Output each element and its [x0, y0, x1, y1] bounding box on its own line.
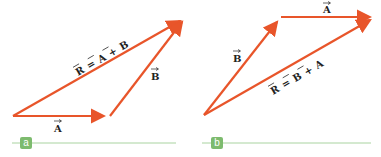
- panel-a: A B R = A + B: [12, 21, 182, 143]
- equation-r-a: R = A + B: [73, 38, 130, 78]
- label-a-top: A: [322, 2, 331, 16]
- vector-b-b: [204, 22, 277, 115]
- label-vector-b: B: [151, 71, 159, 82]
- panel-tag-a: a: [20, 137, 32, 149]
- label-vector-b: B: [233, 53, 241, 64]
- svg-text:R = A: R = A + B: [74, 39, 131, 78]
- label-b-side: B: [151, 68, 159, 83]
- label-vector-a: A: [322, 4, 331, 15]
- label-b-side: B: [233, 50, 241, 65]
- vector-b-a: [110, 22, 182, 116]
- vector-r-a: [13, 21, 180, 116]
- vector-r-b: [204, 20, 370, 115]
- label-a-under: A: [53, 120, 62, 135]
- svg-text:R = B: R = B + A: [269, 57, 326, 96]
- panel-tag-b: b: [211, 137, 223, 149]
- label-vector-a: A: [53, 123, 62, 134]
- panel-b: A B R = B + A: [202, 2, 371, 144]
- vector-addition-diagram: A B R = A + B A: [0, 0, 381, 157]
